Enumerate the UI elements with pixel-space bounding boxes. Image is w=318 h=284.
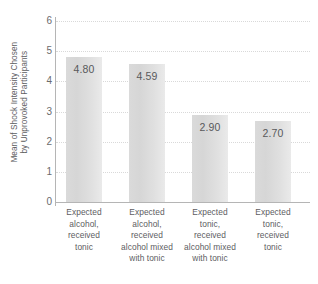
y-axis-ticks: 0 1 2 3 4 5 6 [38,0,52,284]
x-category-2-line-3: received [114,230,180,242]
x-category-label-4: Expected tonic, received tonic [241,207,305,253]
bar-expected-alcohol-received-alcohol-mixed-with-tonic[interactable]: 4.59 [129,64,165,203]
x-category-3-line-3: received [177,230,243,242]
y-axis-title-rotated: by Unprovoked Participants Mean of Shock… [10,42,30,163]
x-category-2-line-5: with tonic [114,253,180,265]
x-category-1-line-1: Expected [52,207,116,219]
y-axis-title-line-1: Mean of Shock Intensity Chosen [10,42,20,163]
bar-expected-tonic-received-tonic[interactable]: 2.70 [255,121,291,203]
x-axis-line [55,202,310,203]
x-category-label-3: Expected tonic, received alcohol mixed w… [177,207,243,265]
bar-value-3: 2.90 [192,122,228,133]
bar-value-2: 4.59 [129,71,165,82]
x-category-2-line-4: alcohol mixed [114,242,180,254]
x-category-2-line-1: Expected [114,207,180,219]
bar-value-4: 2.70 [255,128,291,139]
x-category-2-line-2: alcohol, [114,219,180,231]
y-tick-4: 4 [38,76,52,86]
x-category-4-line-1: Expected [241,207,305,219]
x-category-1-line-2: alcohol, [52,219,116,231]
x-category-4-line-2: tonic, [241,219,305,231]
y-tick-2: 2 [38,137,52,147]
bar-expected-tonic-received-alcohol-mixed-with-tonic[interactable]: 2.90 [192,115,228,203]
y-axis-title-line-2: by Unprovoked Participants [20,51,30,154]
y-axis-title: by Unprovoked Participants Mean of Shock… [0,0,40,205]
x-category-1-line-4: tonic [52,242,116,254]
x-category-label-1: Expected alcohol, received tonic [52,207,116,253]
bar-slot-1: 4.80 [66,21,102,202]
x-category-3-line-5: with tonic [177,253,243,265]
x-category-3-line-2: tonic, [177,219,243,231]
y-tick-5: 5 [38,46,52,56]
x-category-4-line-4: tonic [241,242,305,254]
bar-chart: by Unprovoked Participants Mean of Shock… [0,0,318,284]
x-category-4-line-3: received [241,230,305,242]
x-category-1-line-3: received [52,230,116,242]
bars-layer: 4.80 4.59 2.90 2.70 [56,21,310,202]
x-category-3-line-4: alcohol mixed [177,242,243,254]
y-tick-0: 0 [38,197,52,207]
y-tick-1: 1 [38,167,52,177]
x-category-3-line-1: Expected [177,207,243,219]
bar-slot-3: 2.90 [192,21,228,202]
y-tick-6: 6 [38,16,52,26]
y-tick-3: 3 [38,107,52,117]
bar-expected-alcohol-received-tonic[interactable]: 4.80 [66,57,102,202]
bar-slot-4: 2.70 [255,21,291,202]
bar-value-1: 4.80 [66,64,102,75]
bar-slot-2: 4.59 [129,21,165,202]
x-category-label-2: Expected alcohol, received alcohol mixed… [114,207,180,265]
x-axis-categories: Expected alcohol, received tonic Expecte… [56,207,310,281]
